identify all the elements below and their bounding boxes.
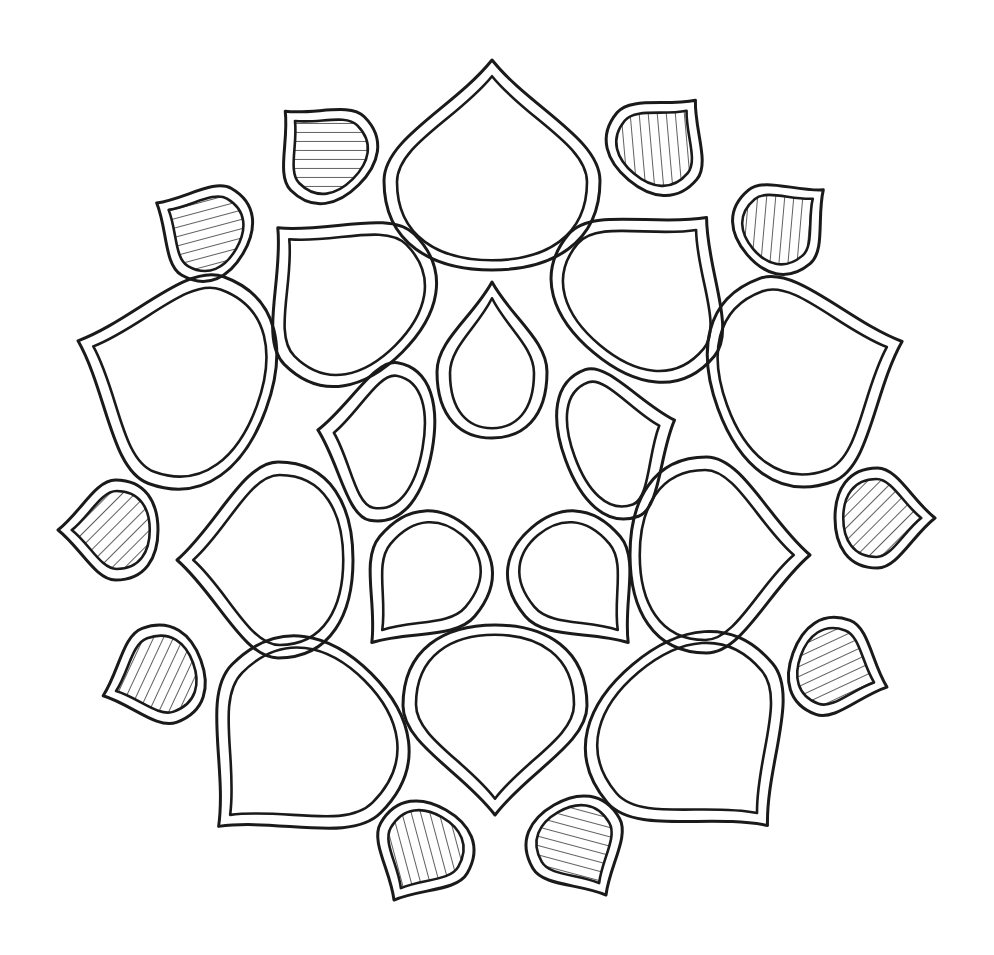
teardrop-outer-outline: [213, 163, 468, 418]
large-teardrop-shape: [681, 240, 939, 510]
inner-teardrop-shape: [304, 351, 446, 529]
hatched-small-teardrop-shape: [58, 480, 158, 580]
teardrop-inner-outline: [640, 470, 794, 640]
teardrop-inner-outline: [552, 365, 681, 518]
inner-teardrop-shape: [437, 282, 547, 438]
large-teardrop-shape: [403, 625, 587, 815]
teardrop-outer-outline: [177, 462, 353, 658]
large-teardrop-shape: [213, 163, 468, 418]
hatched-small-teardrop-shape: [248, 74, 395, 221]
teardrop-inner-outline: [397, 76, 587, 260]
large-teardrop-shape: [177, 462, 353, 658]
large-teardrop-shape: [521, 157, 780, 414]
teardrop-shapes-group: [40, 60, 939, 925]
hatched-small-teardrop-shape: [776, 606, 904, 734]
hatched-small-teardrop-shape: [351, 785, 490, 925]
teardrop-inner-outline: [450, 298, 534, 428]
teardrop-inner-outline: [416, 635, 574, 799]
hatched-small-teardrop-shape: [835, 468, 935, 568]
teardrop-outer-outline: [403, 625, 587, 815]
mandala-illustration: [0, 0, 994, 955]
large-teardrop-shape: [40, 237, 303, 512]
hatched-small-teardrop-shape: [716, 153, 854, 291]
teardrop-inner-outline: [345, 504, 500, 662]
teardrop-inner-outline: [193, 475, 343, 645]
teardrop-inner-outline: [537, 177, 759, 397]
hatched-small-teardrop-shape: [86, 613, 218, 743]
hatched-small-teardrop-shape: [589, 67, 736, 214]
inner-teardrop-shape: [539, 347, 701, 533]
teardrop-outer-outline: [521, 157, 780, 414]
